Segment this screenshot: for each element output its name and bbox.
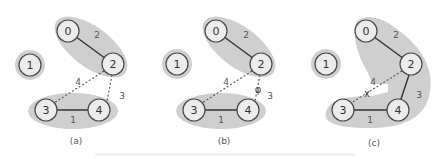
node-label: 3	[43, 104, 50, 117]
node-1: 1	[315, 53, 337, 75]
node-3: 3	[332, 99, 354, 121]
edge-weight-3-4: 1	[70, 115, 76, 125]
edge-marker-x: x	[364, 88, 370, 99]
edge-marker-phi: φ	[255, 84, 262, 95]
panel-caption-b: (b)	[218, 136, 231, 146]
panel-caption-a: (a)	[70, 136, 83, 146]
node-label: 2	[258, 58, 265, 71]
kruskal-diagram: 2 1 4 3 0 1 2 3 4 (a)	[0, 0, 442, 159]
edge-weight-0-2: 2	[243, 30, 249, 40]
node-4: 4	[237, 99, 259, 121]
node-label: 4	[96, 104, 103, 117]
node-label: 0	[363, 25, 370, 38]
node-label: 0	[65, 25, 72, 38]
node-label: 1	[27, 59, 34, 72]
node-4: 4	[387, 99, 409, 121]
node-label: 4	[245, 104, 252, 117]
node-label: 0	[213, 25, 220, 38]
cropped-footer-remnant	[95, 153, 355, 156]
panel-c: 2 1 4 3 x 0 1 2 3 4 (c)	[311, 17, 431, 148]
edge-weight-0-2: 2	[393, 30, 399, 40]
edge-weight-2-3: 4	[223, 77, 229, 87]
node-2: 2	[250, 53, 272, 75]
edge-weight-2-4: 3	[267, 91, 273, 101]
node-label: 2	[408, 58, 415, 71]
node-1: 1	[19, 54, 41, 76]
node-label: 3	[191, 104, 198, 117]
edge-weight-2-3: 4	[75, 77, 81, 87]
panel-b: 2 1 4 3 φ 0 1 2 3 4 (b)	[162, 5, 285, 146]
edge-weight-0-2: 2	[94, 30, 100, 40]
edge-2-4	[107, 75, 112, 101]
node-label: 1	[323, 58, 330, 71]
panel-caption-c: (c)	[368, 138, 380, 148]
edge-weight-2-3: 4	[370, 77, 376, 87]
node-2: 2	[102, 53, 124, 75]
panel-a: 2 1 4 3 0 1 2 3 4 (a)	[15, 5, 137, 146]
node-2: 2	[400, 53, 422, 75]
node-0: 0	[205, 20, 227, 42]
node-0: 0	[57, 20, 79, 42]
edge-weight-2-4: 3	[416, 90, 422, 100]
node-0: 0	[355, 20, 377, 42]
node-label: 1	[174, 58, 181, 71]
edge-weight-3-4: 1	[218, 115, 224, 125]
node-3: 3	[183, 99, 205, 121]
edge-weight-3-4: 1	[367, 115, 373, 125]
edge-weight-2-4: 3	[119, 91, 125, 101]
node-4: 4	[88, 99, 110, 121]
node-1: 1	[166, 53, 188, 75]
node-label: 3	[340, 104, 347, 117]
node-3: 3	[35, 99, 57, 121]
node-label: 2	[110, 58, 117, 71]
node-label: 4	[395, 104, 402, 117]
